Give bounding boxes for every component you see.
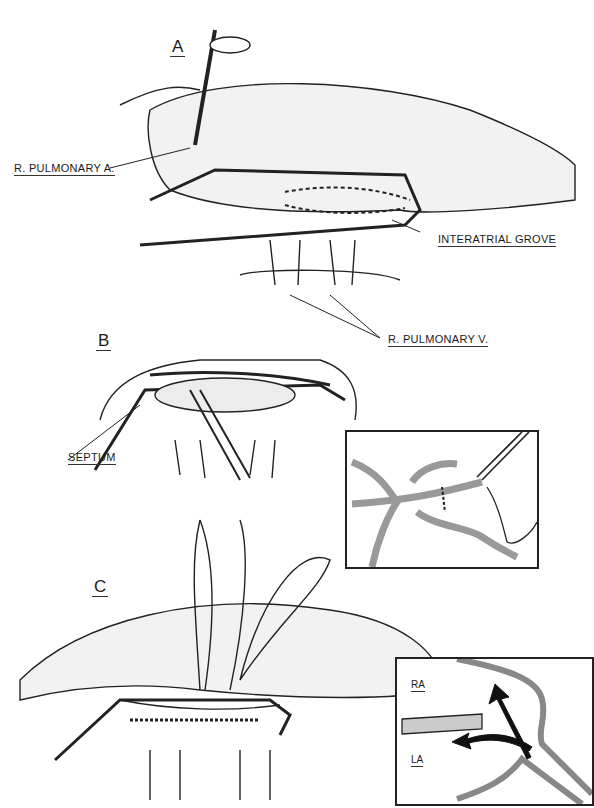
inset-label-la: LA <box>411 754 423 767</box>
inset-label-ra: RA <box>411 679 425 692</box>
label-interatrial-grove: INTERATRIAL GROVE <box>438 233 556 247</box>
panel-label-b: B <box>96 332 111 351</box>
inset-atrial-flow-diagram: RA LA <box>395 657 594 806</box>
panel-label-c: C <box>92 578 108 597</box>
label-r-pulmonary-vein: R. PULMONARY V. <box>388 333 488 347</box>
label-r-pulmonary-artery: R. PULMONARY A. <box>14 162 115 176</box>
vessel-diagram-art <box>347 432 537 567</box>
panel-label-a: A <box>170 38 185 57</box>
atrial-flow-art <box>397 659 592 804</box>
inset-vessel-diagram <box>345 430 539 569</box>
label-septum: SEPTUM <box>68 451 116 465</box>
